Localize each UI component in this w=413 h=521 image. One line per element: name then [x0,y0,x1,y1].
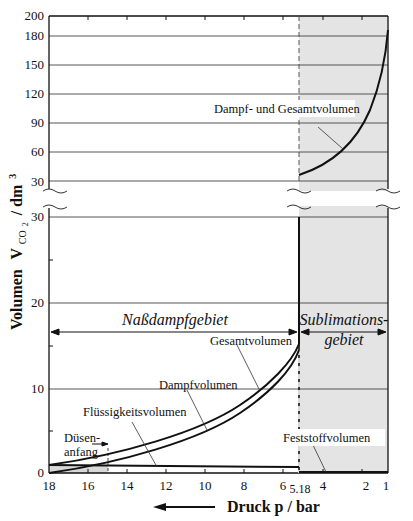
label-fluessigkeitsvolumen: Flüssigkeitsvolumen [83,405,187,419]
svg-text:5.18: 5.18 [290,482,311,496]
label-duesen-1: Düsen- [64,431,100,445]
label-feststoffvolumen: Feststoffvolumen [283,431,371,445]
svg-text:10: 10 [199,478,212,493]
svg-text:30: 30 [31,174,44,189]
x-axis-label: Druck p / bar [227,498,320,516]
region-label-sub-1: Sublimations- [300,311,389,328]
label-duesen-2: anfang [64,445,99,459]
y-tick-labels-upper: 200 180 150 120 90 60 30 [25,8,45,189]
phase-volume-chart: 200 180 150 120 90 60 30 30 20 10 0 18 1… [0,0,413,521]
svg-text:18: 18 [43,478,56,493]
label-gesamtvolumen: Gesamtvolumen [210,334,293,348]
x-axis-label-group: Druck p / bar [153,498,320,516]
svg-text:2: 2 [363,478,370,493]
svg-text:6: 6 [280,478,287,493]
svg-text:200: 200 [25,8,45,23]
svg-text:180: 180 [25,28,45,43]
svg-text:8: 8 [241,478,248,493]
svg-text:90: 90 [31,115,44,130]
region-label-wet: Naßdampfgebiet [121,311,228,329]
svg-text:14: 14 [121,478,135,493]
svg-text:1: 1 [383,478,390,493]
svg-text:120: 120 [25,86,45,101]
svg-text:Volumen V CO: Volumen V CO 2 / dm 3 [7,174,31,330]
y-axis-label: Volumen V CO 2 / dm 3 [7,174,31,330]
svg-text:150: 150 [25,57,45,72]
svg-text:4: 4 [320,478,327,493]
svg-text:60: 60 [31,144,44,159]
x-tick-labels: 18 16 14 12 10 8 6 5.18 4 2 1 [43,478,390,496]
svg-text:20: 20 [31,295,44,310]
y-tick-labels-lower: 30 20 10 0 [31,209,44,480]
region-label-sub-2: gebiet [324,331,364,349]
svg-text:10: 10 [31,381,44,396]
svg-text:16: 16 [82,478,96,493]
label-dampfvolumen: Dampfvolumen [159,378,238,392]
svg-text:30: 30 [31,209,44,224]
label-dampf-gesamt: Dampf- und Gesamtvolumen [214,102,361,116]
svg-text:12: 12 [160,478,173,493]
